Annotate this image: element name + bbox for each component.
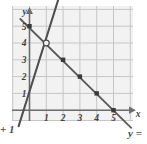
data-point-2-3 bbox=[61, 58, 65, 62]
caption-right-fragment: y = bbox=[128, 127, 142, 139]
y-tick-label-4: 4 bbox=[21, 38, 27, 48]
data-point-0-5 bbox=[27, 24, 31, 28]
y-tick-label-5: 5 bbox=[22, 22, 27, 32]
x-tick-label-4: 4 bbox=[93, 113, 99, 123]
x-tick-label-2: 2 bbox=[60, 113, 66, 123]
y-tick-label-1: 1 bbox=[22, 89, 27, 99]
y-tick-label-3: 3 bbox=[21, 55, 27, 65]
x-axis-label: x bbox=[135, 109, 141, 119]
data-point-4-1 bbox=[95, 91, 99, 95]
x-tick-label-5: 5 bbox=[111, 113, 116, 123]
x-tick-label-3: 3 bbox=[77, 113, 83, 123]
caption-left-fragment: + 1 bbox=[0, 123, 15, 135]
y-axis-label: y bbox=[21, 7, 27, 17]
intersection-open-circle bbox=[43, 40, 49, 46]
data-point-3-2 bbox=[78, 74, 82, 78]
coordinate-plane-chart: 1 2 3 4 5 1 2 3 4 5 x y bbox=[0, 0, 147, 144]
graph-figure: 1 2 3 4 5 1 2 3 4 5 x y + 1 y = bbox=[0, 0, 147, 144]
x-tick-label-1: 1 bbox=[44, 113, 49, 123]
y-tick-label-2: 2 bbox=[21, 72, 27, 82]
